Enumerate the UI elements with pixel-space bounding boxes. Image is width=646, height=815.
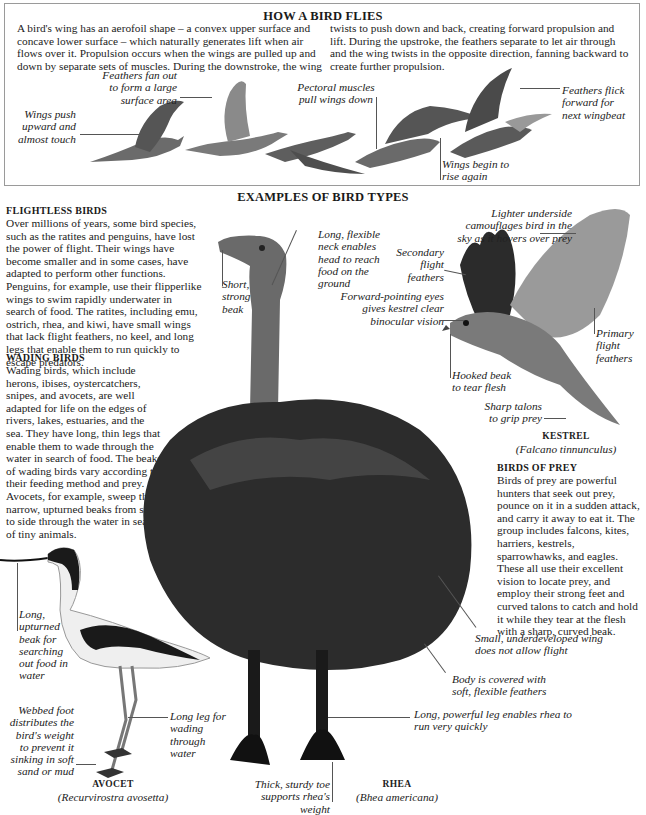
caption-rhea-body: Body is covered with soft, flexible feat… bbox=[452, 673, 552, 698]
leader-line bbox=[332, 762, 333, 802]
leader-line bbox=[540, 233, 576, 234]
rhea-name: RHEA bbox=[342, 778, 452, 791]
caption-avocet-beak: Long, upturned beak for searching out fo… bbox=[19, 608, 71, 682]
caption-kestrel-primary: Primary flight feathers bbox=[596, 327, 644, 364]
leader-line bbox=[222, 250, 223, 286]
leader-line bbox=[328, 717, 410, 718]
caption-kestrel-eyes: Forward-pointing eyes gives kestrel clea… bbox=[330, 290, 444, 327]
prey-heading: BIRDS OF PREY bbox=[497, 462, 577, 473]
kestrel-label: KESTREL (Falcano tinnunculus) bbox=[506, 430, 626, 455]
leader-line bbox=[544, 418, 566, 419]
caption-wings-rise: Wings begin to rise again bbox=[442, 158, 512, 183]
leader-line bbox=[450, 334, 451, 378]
caption-rhea-leg: Long, powerful leg enables rhea to run v… bbox=[414, 708, 574, 733]
caption-wings-push: Wings push upward and almost touch bbox=[14, 108, 76, 145]
leader-line bbox=[180, 97, 212, 98]
flightless-heading: FLIGHTLESS BIRDS bbox=[6, 205, 107, 216]
caption-avocet-leg: Long leg for wading through water bbox=[170, 710, 228, 759]
kestrel-latin-name: (Falcano tinnunculus) bbox=[506, 443, 626, 456]
caption-kestrel-talons: Sharp talons to grip prey bbox=[476, 400, 542, 425]
leader-line bbox=[594, 308, 595, 334]
avocet-label: AVOCET (Recurvirostra avosetta) bbox=[48, 778, 178, 803]
leader-line bbox=[376, 97, 377, 149]
prey-text: Birds of prey are powerful hunters that … bbox=[497, 474, 643, 638]
leader-line bbox=[440, 320, 464, 321]
avocet-name: AVOCET bbox=[48, 778, 178, 791]
leader-line bbox=[440, 138, 441, 180]
caption-rhea-neck: Long, flexible neck enables head to reac… bbox=[318, 228, 398, 289]
leader-line bbox=[128, 717, 168, 718]
caption-rhea-beak: Short, strong beak bbox=[222, 278, 272, 315]
rhea-latin-name: (Bhea americana) bbox=[342, 791, 452, 804]
caption-feathers-fan: Feathers fan out to form a large surface… bbox=[95, 69, 177, 106]
caption-kestrel-beak: Hooked beak to tear flesh bbox=[452, 369, 522, 394]
leader-line bbox=[76, 764, 96, 765]
kestrel-name: KESTREL bbox=[506, 430, 626, 443]
wading-heading: WADING BIRDS bbox=[6, 352, 85, 363]
caption-feathers-flick: Feathers flick forward for next wingbeat bbox=[562, 84, 634, 121]
caption-pectoral-muscles: Pectoral muscles pull wings down bbox=[296, 81, 376, 106]
leader-line bbox=[520, 88, 560, 89]
leader-line bbox=[80, 134, 142, 135]
rhea-label: RHEA (Bhea americana) bbox=[342, 778, 452, 803]
caption-kestrel-underside: Lighter underside camouflages bird in th… bbox=[450, 207, 572, 244]
caption-rhea-wing: Small, underdeveloped wing does not allo… bbox=[475, 632, 615, 657]
caption-rhea-toe: Thick, sturdy toe supports rhea's weight bbox=[240, 778, 330, 815]
types-section-title: EXAMPLES OF BIRD TYPES bbox=[0, 190, 646, 205]
caption-kestrel-secondary: Secondary flight feathers bbox=[390, 246, 444, 283]
leader-line bbox=[17, 563, 18, 631]
avocet-latin-name: (Recurvirostra avosetta) bbox=[48, 791, 178, 804]
caption-avocet-foot: Webbed foot distributes the bird's weigh… bbox=[6, 704, 74, 778]
